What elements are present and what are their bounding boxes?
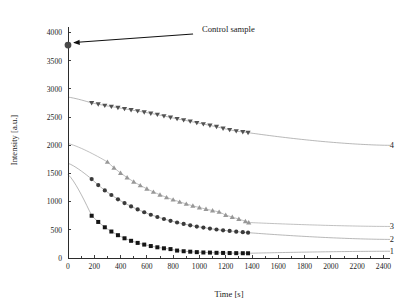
data-point (246, 231, 250, 235)
data-point (175, 249, 179, 253)
data-point (214, 227, 218, 231)
data-point (168, 219, 172, 223)
data-point (149, 244, 153, 248)
data-point (195, 224, 199, 228)
x-tick-label: 2400 (376, 262, 391, 271)
data-point (221, 228, 225, 232)
data-point (96, 183, 100, 187)
data-point (122, 201, 126, 205)
data-point (129, 204, 133, 208)
data-point (103, 225, 107, 229)
control-sample-marker (65, 42, 72, 49)
series-markers-3 (105, 159, 251, 224)
data-point (142, 243, 146, 247)
series-label-1: 1 (390, 247, 394, 256)
y-tick-label: 1000 (47, 197, 62, 206)
y-tick-label: 0 (58, 254, 62, 263)
y-tick-label: 2000 (47, 141, 62, 150)
x-tick-label: 1000 (192, 262, 207, 271)
data-point (234, 230, 238, 234)
data-point (188, 250, 192, 254)
x-tick-label: 1600 (271, 262, 286, 271)
data-point (138, 183, 143, 187)
data-point (157, 192, 162, 196)
data-point (221, 251, 225, 255)
data-point (109, 193, 113, 197)
chart-figure: 0200400600800100012001400160018002000220… (0, 0, 414, 307)
data-point (162, 246, 166, 250)
intensity-vs-time-chart: 0200400600800100012001400160018002000220… (0, 0, 414, 307)
data-point (116, 233, 120, 237)
tick-labels-layer: 0200400600800100012001400160018002000220… (47, 28, 391, 271)
data-point (164, 195, 169, 199)
data-point (234, 251, 238, 255)
data-point (162, 217, 166, 221)
series-markers-2 (90, 177, 251, 235)
x-tick-label: 200 (89, 262, 101, 271)
data-point (182, 222, 186, 226)
series-fit-line-3 (68, 144, 390, 227)
x-tick-label: 1800 (297, 262, 312, 271)
y-tick-label: 2500 (47, 113, 62, 122)
data-point (90, 177, 94, 181)
data-point (195, 250, 199, 254)
data-point (228, 251, 232, 255)
x-tick-label: 0 (66, 262, 70, 271)
series-label-2: 2 (390, 235, 394, 244)
data-point (144, 186, 149, 190)
x-tick-label: 400 (115, 262, 127, 271)
data-markers-layer (89, 101, 251, 255)
series-fit-line-4 (68, 97, 390, 145)
data-point (116, 197, 120, 201)
control-sample-arrow-head (73, 40, 80, 45)
x-axis-title: Time [s] (214, 289, 243, 299)
data-point (129, 239, 133, 243)
data-point (175, 220, 179, 224)
x-tick-label: 2200 (350, 262, 365, 271)
data-point (142, 210, 146, 214)
data-point (223, 213, 228, 217)
data-point (155, 245, 159, 249)
data-point (241, 251, 245, 255)
y-tick-label: 3000 (47, 85, 62, 94)
data-point (188, 223, 192, 227)
y-tick-label: 4000 (47, 28, 62, 37)
data-point (136, 207, 140, 211)
data-point (149, 213, 153, 217)
data-point (201, 225, 205, 229)
data-point (123, 236, 127, 240)
data-point (208, 251, 212, 255)
data-point (136, 241, 140, 245)
x-tick-label: 800 (167, 262, 179, 271)
y-tick-label: 3500 (47, 57, 62, 66)
data-point (169, 247, 173, 251)
data-point (125, 175, 130, 179)
x-tick-label: 1400 (244, 262, 259, 271)
data-point (228, 229, 232, 233)
y-tick-label: 500 (51, 226, 63, 235)
data-point (182, 249, 186, 253)
series-fit-line-1 (68, 175, 390, 254)
annotation-layer: Control sample (65, 24, 255, 48)
data-point (109, 230, 113, 234)
series-label-4: 4 (390, 141, 395, 150)
data-point (105, 159, 110, 163)
data-point (155, 215, 159, 219)
series-label-3: 3 (390, 222, 394, 231)
data-point (103, 188, 107, 192)
data-point (246, 251, 250, 255)
x-tick-label: 1200 (218, 262, 233, 271)
y-axis-title: Intensity [a.u.] (9, 115, 19, 165)
x-tick-label: 600 (141, 262, 153, 271)
data-point (215, 251, 219, 255)
x-tick-label: 2000 (323, 262, 338, 271)
data-point (241, 230, 245, 234)
data-point (208, 226, 212, 230)
data-point (90, 214, 94, 218)
data-point (151, 189, 156, 193)
data-point (201, 250, 205, 254)
control-sample-annotation-text: Control sample (202, 24, 255, 34)
y-tick-label: 1500 (47, 169, 62, 178)
series-markers-4 (89, 101, 251, 135)
series-fit-line-2 (68, 163, 390, 239)
